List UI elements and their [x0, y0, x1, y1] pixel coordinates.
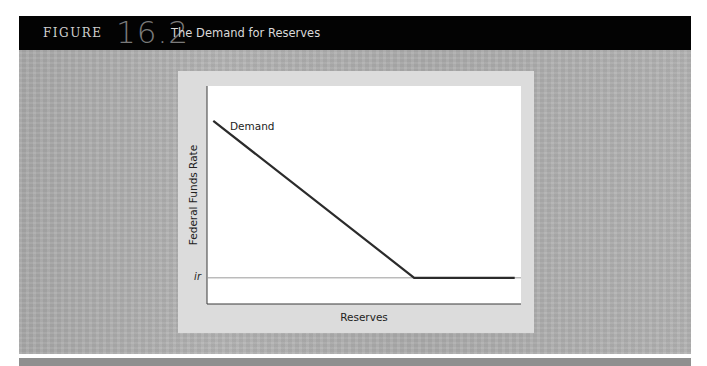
plot-area	[207, 86, 521, 304]
ir-label: ir	[194, 271, 202, 282]
demand-label: Demand	[230, 120, 275, 132]
y-axis-label: Federal Funds Rate	[187, 145, 199, 245]
demand-chart: Demand ir Federal Funds Rate Reserves	[178, 71, 534, 333]
figure-word: FIGURE	[43, 26, 103, 40]
figure-title: The Demand for Reserves	[171, 26, 320, 40]
chart-panel: Demand ir Federal Funds Rate Reserves	[178, 71, 534, 333]
figure-header: FIGURE 16.2 The Demand for Reserves	[19, 16, 691, 50]
x-axis-label: Reserves	[340, 311, 388, 323]
footer-bar	[19, 358, 691, 366]
